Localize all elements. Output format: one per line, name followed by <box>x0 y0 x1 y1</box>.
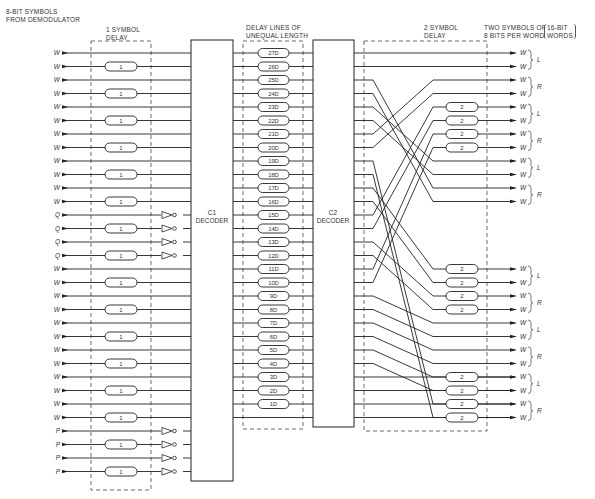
output-arrow-icon <box>510 132 517 136</box>
input-label: P <box>56 441 61 448</box>
crossing-wire <box>354 148 515 283</box>
inverter-bubble-icon <box>173 213 177 217</box>
delay-line-label: 21D <box>268 131 279 137</box>
delay-line-label: 23D <box>268 104 279 110</box>
brace-icon <box>528 158 533 178</box>
inverter-bubble-icon <box>173 456 177 460</box>
input-arrow-icon <box>62 119 68 123</box>
input-label: W <box>54 171 61 178</box>
output-label: W <box>520 117 527 124</box>
output-arrow-icon <box>510 389 517 393</box>
input-arrow-icon <box>62 362 68 366</box>
one-symbol-delay-box <box>91 41 151 490</box>
input-label: P <box>56 427 61 434</box>
channel-label: L <box>537 110 541 117</box>
output-arrow-icon <box>510 294 517 298</box>
input-arrow-icon <box>62 470 68 474</box>
input-arrow-icon <box>62 213 68 217</box>
delay-line-label: 1D <box>270 401 277 407</box>
brace-icon <box>528 185 533 205</box>
brace-icon <box>528 50 533 70</box>
delay-line-label: 15D <box>268 212 279 218</box>
input-label: W <box>54 198 61 205</box>
output-label: W <box>520 130 527 137</box>
output-arrow-icon <box>510 308 517 312</box>
input-arrow-icon <box>62 132 68 136</box>
brace-icon <box>528 293 533 313</box>
delay-line-label: 25D <box>268 77 279 83</box>
channel-label: L <box>537 272 541 279</box>
output-arrow-icon <box>510 173 517 177</box>
c1-decoder <box>191 40 233 481</box>
delay-line-label: 13D <box>268 239 279 245</box>
inverter-bubble-icon <box>173 254 177 258</box>
channel-label: R <box>537 299 542 306</box>
output-arrow-icon <box>510 186 517 190</box>
output-label: W <box>520 414 527 421</box>
input-label: W <box>54 400 61 407</box>
input-label: W <box>54 319 61 326</box>
delay-line-label: 2D <box>270 388 277 394</box>
input-label: W <box>54 144 61 151</box>
input-label: W <box>54 292 61 299</box>
input-arrow-icon <box>62 456 68 460</box>
channel-label: R <box>537 137 542 144</box>
brace-icon <box>528 401 533 421</box>
output-label: W <box>520 49 527 56</box>
delay-line-label: 12D <box>268 253 279 259</box>
output-arrow-icon <box>510 281 517 285</box>
input-arrow-icon <box>62 78 68 82</box>
output-label: W <box>520 90 527 97</box>
output-label: W <box>520 184 527 191</box>
delay-line-label: 10D <box>268 280 279 286</box>
input-label: Q <box>55 225 60 233</box>
output-arrow-icon <box>510 51 517 55</box>
c2-decoder <box>313 40 354 427</box>
channel-label: L <box>537 164 541 171</box>
delay-line-label: 7D <box>270 320 277 326</box>
brace-icon <box>528 104 533 124</box>
input-arrow-icon <box>62 65 68 69</box>
output-arrow-icon <box>510 348 517 352</box>
output-arrow-icon <box>510 105 517 109</box>
input-arrow-icon <box>62 240 68 244</box>
input-label: Q <box>55 238 60 246</box>
input-label: W <box>54 373 61 380</box>
output-arrow-icon <box>510 159 517 163</box>
delay-line-label: 18D <box>268 172 279 178</box>
channel-label: R <box>537 83 542 90</box>
output-arrow-icon <box>510 267 517 271</box>
output-label: W <box>520 76 527 83</box>
output-label: W <box>520 400 527 407</box>
input-arrow-icon <box>62 227 68 231</box>
output-arrow-icon <box>510 119 517 123</box>
delay-line-label: 11D <box>268 266 278 272</box>
output-arrow-icon <box>510 321 517 325</box>
input-label: W <box>54 306 61 313</box>
brace-icon <box>528 374 533 394</box>
input-label: W <box>54 333 61 340</box>
brace-icon <box>528 320 533 340</box>
inverter-bubble-icon <box>173 227 177 231</box>
components: WWWWWWWWWWWWQQQQWWWWWWWWWWWWPPPP11111111… <box>54 49 542 477</box>
delay-line-label: 9D <box>270 293 277 299</box>
delay-line-label: 16D <box>268 199 279 205</box>
channel-label: R <box>537 353 542 360</box>
output-arrow-icon <box>510 78 517 82</box>
input-label: W <box>54 157 61 164</box>
output-label: W <box>520 279 527 286</box>
output-label: W <box>520 171 527 178</box>
delay-line-label: 24D <box>268 91 279 97</box>
input-label: W <box>54 76 61 83</box>
output-label: W <box>520 144 527 151</box>
output-arrow-icon <box>510 200 517 204</box>
output-arrow-icon <box>510 402 517 406</box>
input-label: W <box>54 103 61 110</box>
output-label: W <box>520 63 527 70</box>
input-label: W <box>54 265 61 272</box>
input-label: W <box>54 360 61 367</box>
input-arrow-icon <box>62 51 68 55</box>
output-label: W <box>520 292 527 299</box>
output-label: W <box>520 157 527 164</box>
deinterleaver-diagram: WWWWWWWWWWWWQQQQWWWWWWWWWWWWPPPP11111111… <box>0 0 595 499</box>
